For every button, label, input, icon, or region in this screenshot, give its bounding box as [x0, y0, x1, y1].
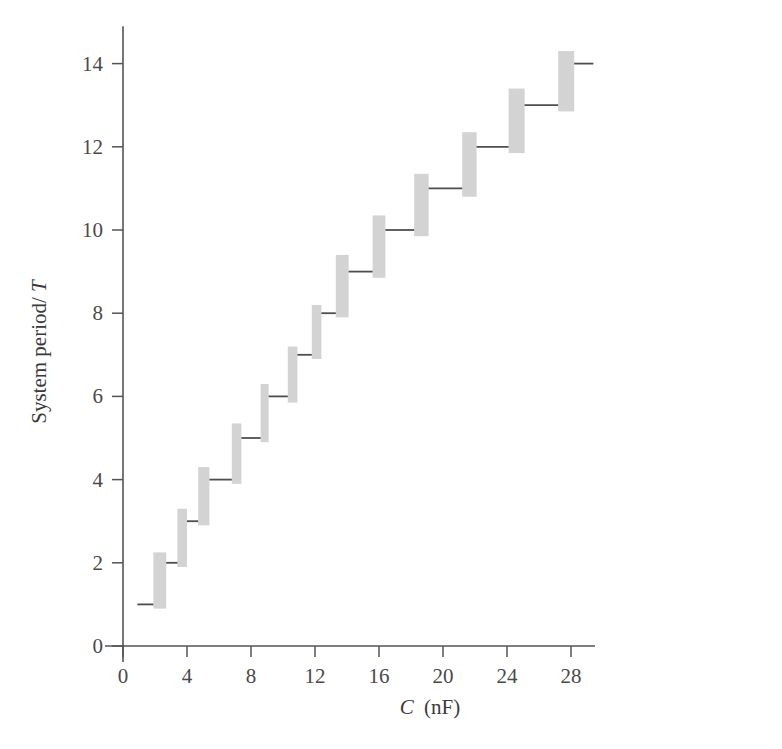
x-axis-unit: (nF) — [424, 695, 460, 719]
transition-band-9 — [414, 174, 428, 236]
transition-band-10 — [462, 132, 476, 196]
x-tick-label-12: 12 — [305, 664, 326, 688]
y-tick-label-4: 4 — [93, 468, 104, 492]
y-axis-title: System period/ T — [27, 279, 51, 424]
y-tick-label-10: 10 — [82, 218, 103, 242]
y-axis-symbol: T — [27, 279, 51, 292]
transition-band-3 — [232, 423, 242, 483]
y-tick-label-6: 6 — [93, 384, 104, 408]
x-tick-label-8: 8 — [246, 664, 257, 688]
transition-band-8 — [373, 215, 386, 277]
transition-band-2 — [198, 467, 209, 525]
y-axis-ticks-group: 02468101214 — [82, 52, 123, 658]
transition-band-12 — [558, 51, 574, 111]
transition-band-5 — [288, 346, 298, 402]
x-axis-title: C (nF) — [400, 695, 460, 719]
transition-bands-group — [153, 51, 574, 608]
x-axis-symbol: C — [400, 695, 415, 719]
transition-band-11 — [509, 89, 525, 153]
devils-staircase-plot: 02468101214 0481216202428 C (nF) System … — [0, 0, 782, 749]
chart-figure: 02468101214 0481216202428 C (nF) System … — [0, 0, 782, 749]
transition-band-4 — [261, 384, 269, 442]
y-tick-label-2: 2 — [93, 551, 104, 575]
x-tick-label-0: 0 — [118, 664, 129, 688]
x-tick-label-20: 20 — [433, 664, 454, 688]
y-tick-label-0: 0 — [93, 634, 104, 658]
x-axis-ticks-group: 0481216202428 — [118, 646, 582, 688]
y-tick-label-12: 12 — [82, 135, 103, 159]
y-tick-label-8: 8 — [93, 301, 104, 325]
transition-band-0 — [153, 552, 166, 608]
transition-band-6 — [312, 305, 322, 359]
transition-band-7 — [336, 255, 349, 317]
x-tick-label-16: 16 — [369, 664, 390, 688]
x-tick-label-24: 24 — [497, 664, 519, 688]
x-tick-label-28: 28 — [561, 664, 582, 688]
y-tick-label-14: 14 — [82, 52, 104, 76]
transition-band-1 — [177, 509, 187, 567]
y-axis-title-text: System period/ — [27, 297, 51, 424]
x-tick-label-4: 4 — [182, 664, 193, 688]
